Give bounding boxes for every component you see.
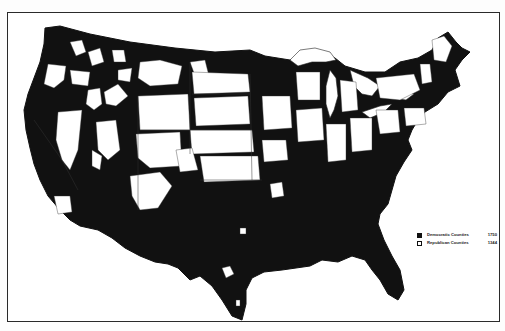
legend-count: 1750 [485,231,497,239]
legend-item-republican: Republican Counties 1344 [417,239,497,247]
legend-count: 1344 [485,239,497,247]
map-legend: Democratic Counties 1750 Republican Coun… [417,231,497,247]
democratic-swatch-icon [417,233,422,238]
republican-swatch-icon [417,241,422,246]
legend-label: Democratic Counties [427,231,485,239]
legend-label: Republican Counties [427,239,485,247]
us-county-map [0,0,505,331]
legend-item-democratic: Democratic Counties 1750 [417,231,497,239]
